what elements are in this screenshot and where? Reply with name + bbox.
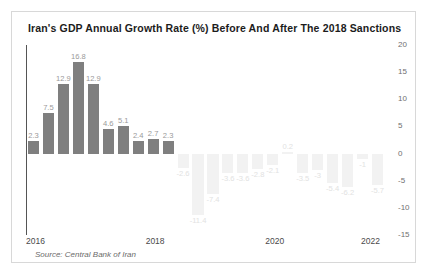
y-axis-tick-label: 5 — [398, 122, 427, 130]
y-axis-tick-label: -10 — [398, 204, 427, 212]
x-axis-tick-label: 2022 — [361, 236, 380, 246]
bar-value-label: 5.1 — [111, 116, 135, 125]
bar-value-label: -3 — [306, 171, 330, 180]
y-axis-tick-label: 20 — [398, 41, 427, 49]
bar-value-label: 16.8 — [66, 52, 90, 61]
bar-value-label: -5.7 — [366, 186, 390, 195]
chart-title: Iran's GDP Annual Growth Rate (%) Before… — [28, 22, 408, 34]
bar-value-label: -7.4 — [201, 195, 225, 204]
bar — [372, 154, 383, 185]
y-axis-tick-label: -5 — [398, 177, 427, 185]
bar — [222, 154, 233, 174]
bar-value-label: 12.9 — [81, 74, 105, 83]
bar — [28, 141, 39, 153]
bar — [148, 139, 159, 154]
y-axis-tick-label: 10 — [398, 95, 427, 103]
bar — [312, 154, 323, 170]
bar — [103, 129, 114, 154]
plot-area: 2.37.512.916.812.94.65.12.42.72.3-2.6-11… — [26, 45, 385, 235]
bar-value-label: -6.2 — [336, 188, 360, 197]
bar — [133, 141, 144, 154]
bar — [267, 154, 278, 165]
bar-value-label: -1 — [351, 160, 375, 169]
bar — [327, 154, 338, 183]
bar — [192, 154, 203, 216]
chart-figure: Iran's GDP Annual Growth Rate (%) Before… — [0, 0, 427, 274]
x-axis-tick-label: 2018 — [146, 236, 165, 246]
source-note: Source: Central Bank of Iran — [35, 250, 136, 259]
y-axis-tick-label: 0 — [398, 150, 427, 158]
bar-value-label: 12.9 — [51, 74, 75, 83]
bar — [163, 141, 174, 153]
y-axis-ticks: 20151050-5-10-15 — [390, 45, 426, 235]
bar-value-label: -11.4 — [186, 216, 210, 225]
bar — [297, 154, 308, 173]
bar-value-label: 0.2 — [276, 142, 300, 151]
bar — [43, 113, 54, 154]
bar-value-label: -2.1 — [261, 166, 285, 175]
bar-value-label: -2.6 — [171, 169, 195, 178]
bar — [282, 152, 293, 153]
x-axis-tick-label: 2020 — [265, 236, 284, 246]
bar — [357, 154, 368, 159]
bar — [178, 154, 189, 168]
bar-value-label: 2.3 — [156, 131, 180, 140]
bar — [58, 84, 69, 154]
x-axis-tick-label: 2016 — [26, 236, 45, 246]
bar — [342, 154, 353, 188]
y-axis-tick-label: 15 — [398, 68, 427, 76]
bar-value-label: 2.3 — [22, 131, 46, 140]
bar-value-label: 7.5 — [36, 103, 60, 112]
